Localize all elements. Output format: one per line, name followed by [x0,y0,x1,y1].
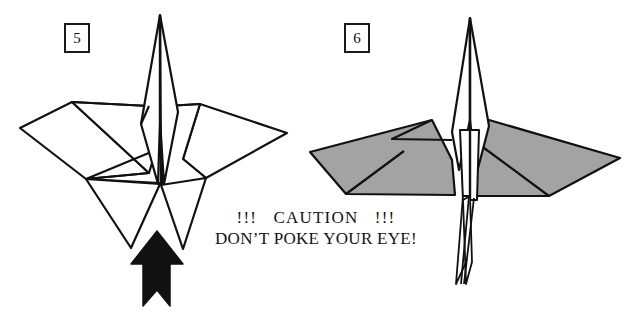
step-number-box-6: 6 [344,23,370,53]
figure5-spike-ridge [160,15,161,186]
step-number-label-5: 5 [73,31,81,46]
step-number-box-5: 5 [64,23,90,53]
origami-diagram [0,0,639,316]
push-arrow-up [131,231,183,306]
caution-headline: !!! CAUTION !!! [196,208,436,229]
caution-note: !!! CAUTION !!! DON’T POKE YOUR EYE! [196,208,436,249]
figure6-right-wing-outer [470,120,620,196]
figure6-left-wing-outer [310,120,455,195]
origami-instruction-page: 5 6 !!! CAUTION !!! DON’T POKE YOUR EYE! [0,0,639,316]
caution-message: DON’T POKE YOUR EYE! [196,229,436,250]
arrow-shape [131,231,183,306]
figure5-right-wing-outer [183,104,287,178]
figure5-leg-left [86,179,160,248]
step-number-label-6: 6 [353,31,361,46]
